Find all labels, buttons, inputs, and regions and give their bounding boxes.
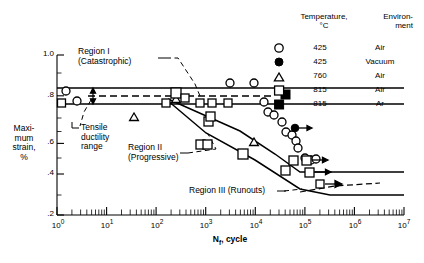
x-tick-base: 10 bbox=[299, 221, 308, 230]
data-point bbox=[305, 168, 314, 177]
x-tick-base: 10 bbox=[349, 221, 358, 230]
x-tick-exp: 1 bbox=[110, 218, 114, 225]
x-tick-label-3: 103 bbox=[195, 218, 217, 230]
legend-env-0: Air bbox=[352, 43, 408, 52]
legend-header-environment: Environ- ment bbox=[355, 12, 413, 30]
legend-env-4: Ar bbox=[352, 99, 408, 108]
data-point bbox=[316, 180, 324, 188]
legend-temp-2: 760 bbox=[300, 71, 340, 80]
data-point bbox=[278, 118, 286, 126]
legend-header-temperature-line1: Temperature, bbox=[290, 12, 358, 21]
legend-header-environment-line2: ment bbox=[355, 21, 413, 30]
legend-header-temperature: Temperature, °C bbox=[290, 12, 358, 30]
annotation-region-iii-line1: Region III (Runouts) bbox=[189, 186, 265, 196]
data-point bbox=[302, 156, 311, 165]
x-tick-label-4: 104 bbox=[245, 218, 267, 230]
data-point bbox=[208, 99, 216, 107]
data-point bbox=[196, 99, 204, 107]
data-point bbox=[291, 124, 299, 132]
data-point bbox=[224, 99, 232, 107]
legend-header-temperature-line2: °C bbox=[290, 21, 358, 30]
x-tick-label-6: 106 bbox=[344, 218, 366, 230]
data-point bbox=[238, 149, 248, 159]
x-tick-label-0: 100 bbox=[47, 218, 69, 230]
x-tick-label-5: 105 bbox=[294, 218, 316, 230]
legend-env-1: Vacuum bbox=[352, 57, 408, 66]
data-point bbox=[62, 87, 70, 95]
data-point bbox=[289, 156, 298, 165]
data-point bbox=[203, 140, 212, 149]
data-point bbox=[270, 111, 278, 119]
legend-marker-open-circle bbox=[275, 44, 283, 52]
y-tick-label-4: .4 bbox=[26, 168, 54, 177]
x-tick-base: 10 bbox=[52, 221, 61, 230]
legend-marker-open-square bbox=[275, 86, 284, 95]
x-axis-title: Nf, cycle bbox=[170, 235, 290, 247]
x-tick-label-7: 107 bbox=[393, 218, 415, 230]
data-point bbox=[281, 166, 290, 175]
x-tick-base: 10 bbox=[398, 221, 407, 230]
legend-marker-filled-square bbox=[275, 100, 284, 109]
data-point bbox=[250, 79, 258, 87]
x-tick-base: 10 bbox=[200, 221, 209, 230]
x-tick-exp: 6 bbox=[358, 218, 362, 225]
legend-temp-3: 815 bbox=[300, 85, 340, 94]
legend-env-2: Air bbox=[352, 71, 408, 80]
data-point bbox=[226, 79, 234, 87]
y-tick-label-2: .8 bbox=[26, 90, 54, 99]
y-axis-title: Maxi- mum strain, % bbox=[2, 124, 46, 162]
annotation-tensile-line3: range bbox=[81, 142, 109, 152]
data-point bbox=[312, 155, 320, 163]
annotation-tensile-ductility: Tensile ductility range bbox=[81, 123, 109, 152]
data-point bbox=[58, 99, 66, 107]
y-tick-label-5: .2 bbox=[26, 209, 54, 218]
x-tick-base: 10 bbox=[151, 221, 160, 230]
annotation-region-ii-line2: (Progressive) bbox=[128, 153, 179, 163]
x-tick-label-1: 101 bbox=[96, 218, 118, 230]
x-axis-title-rest: , cycle bbox=[221, 234, 247, 244]
data-point bbox=[171, 88, 181, 98]
data-point bbox=[260, 98, 268, 106]
annotation-region-ii: Region II (Progressive) bbox=[128, 143, 179, 162]
legend-temp-4: 815 bbox=[300, 99, 340, 108]
x-tick-exp: 2 bbox=[160, 218, 164, 225]
x-tick-label-2: 102 bbox=[146, 218, 168, 230]
legend-temp-1: 425 bbox=[300, 57, 340, 66]
data-point bbox=[181, 94, 189, 102]
annotation-region-i: Region I (Catastrophic) bbox=[78, 47, 131, 66]
legend-marker-filled-circle bbox=[275, 58, 283, 66]
x-tick-exp: 0 bbox=[61, 218, 65, 225]
y-axis-title-line4: % bbox=[2, 153, 46, 163]
x-tick-exp: 5 bbox=[308, 218, 312, 225]
annotation-region-iii: Region III (Runouts) bbox=[189, 186, 265, 196]
x-tick-exp: 4 bbox=[259, 218, 263, 225]
legend-header-environment-line1: Environ- bbox=[355, 12, 413, 21]
x-tick-exp: 3 bbox=[209, 218, 213, 225]
x-tick-exp: 7 bbox=[407, 218, 411, 225]
x-tick-base: 10 bbox=[101, 221, 110, 230]
y-tick-label-1: 1.0 bbox=[26, 49, 54, 58]
data-point bbox=[206, 112, 215, 121]
x-tick-base: 10 bbox=[250, 221, 259, 230]
data-point bbox=[294, 144, 302, 152]
annotation-region-i-line2: (Catastrophic) bbox=[78, 57, 131, 67]
data-point bbox=[73, 97, 81, 105]
legend-env-3: Air bbox=[352, 85, 408, 94]
legend-temp-0: 425 bbox=[300, 43, 340, 52]
data-point bbox=[162, 99, 170, 107]
